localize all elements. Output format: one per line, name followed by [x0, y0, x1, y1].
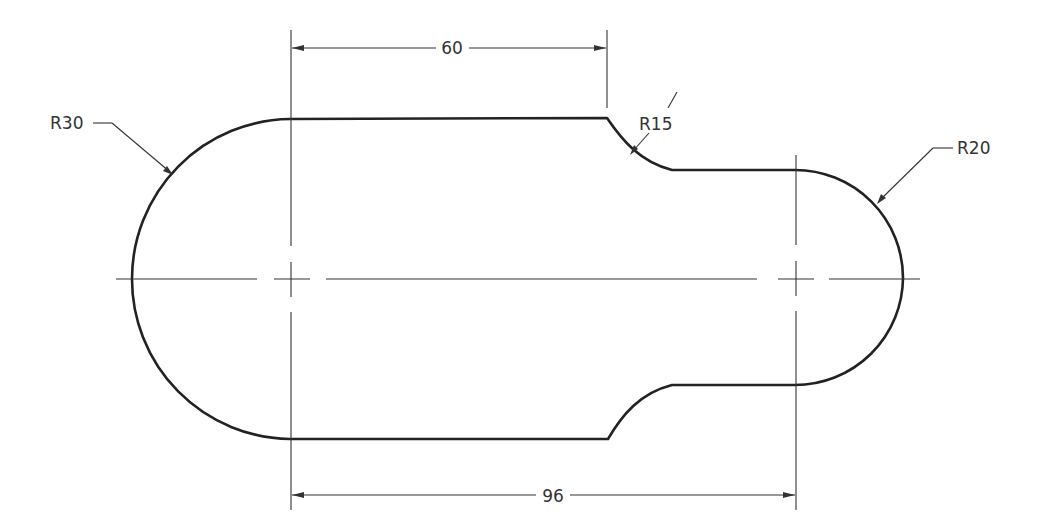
dimension-60: 60	[292, 38, 606, 58]
dimension-96: 96	[292, 486, 795, 506]
technical-drawing: 60 96 R30 R15 R20	[0, 0, 1045, 530]
dimension-label-r30: R30	[50, 113, 83, 133]
dimension-label-r15: R15	[639, 114, 672, 134]
dimension-label-96: 96	[542, 486, 564, 506]
leader-r20: R20	[877, 138, 990, 204]
leader-r15: R15	[630, 92, 677, 155]
leader-r30: R30	[50, 113, 173, 175]
dimension-label-60: 60	[441, 38, 463, 58]
dimension-label-r20: R20	[957, 138, 990, 158]
